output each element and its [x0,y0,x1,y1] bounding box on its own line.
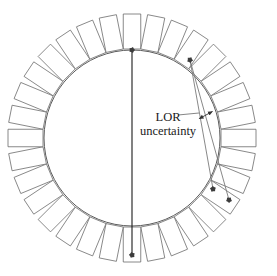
lor-label: LOR [138,110,198,124]
detector-block [8,129,43,147]
detector-block [221,129,256,147]
pet-ring-figure: LOR uncertainty [0,0,277,276]
uncertainty-label: uncertainty [130,124,206,138]
scanner-diagram [0,0,277,276]
detector-block [123,14,141,49]
